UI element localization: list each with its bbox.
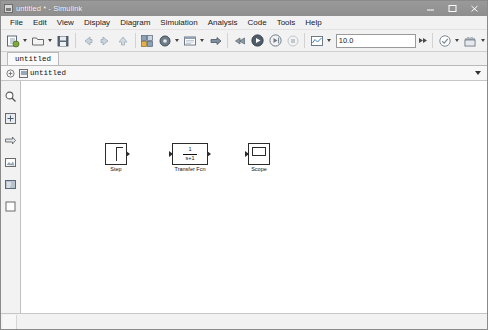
transfer-function-expression: 1 s+1 [173, 144, 207, 164]
step-forward-icon[interactable] [267, 33, 283, 49]
save-icon[interactable] [56, 33, 72, 49]
window-controls [419, 2, 485, 15]
block-transfer-fcn-output-port[interactable] [207, 151, 211, 157]
menu-item-help[interactable]: Help [300, 16, 326, 30]
navigate-icon[interactable] [3, 133, 18, 148]
tab-untitled[interactable]: untitled [7, 52, 59, 65]
image-icon[interactable] [3, 155, 18, 170]
block-step[interactable]: Step [105, 143, 127, 165]
block-scope-input-port[interactable] [245, 151, 249, 157]
open-dropdown-icon[interactable] [47, 33, 54, 49]
fast-forward-icon[interactable] [418, 33, 430, 49]
model-canvas[interactable]: Step 1 s+1 Transfer Fcn [21, 81, 487, 313]
new-model-dropdown-icon[interactable] [22, 33, 29, 49]
tab-strip: untitled [1, 52, 487, 66]
block-scope[interactable]: Scope [248, 143, 270, 165]
title-bar: untitled * - Simulink [1, 1, 487, 16]
area-icon[interactable] [3, 199, 18, 214]
model-configuration-dropdown-icon[interactable] [174, 33, 181, 49]
build-dropdown-icon[interactable] [479, 33, 486, 49]
toolbar-separator [304, 33, 305, 48]
block-transfer-fcn-input-port[interactable] [169, 151, 173, 157]
model-icon [19, 69, 28, 78]
canvas-toolbar [1, 81, 21, 313]
status-bar [1, 313, 487, 329]
menu-item-display[interactable]: Display [79, 16, 115, 30]
simulink-window: untitled * - Simulink File Edit View Dis… [0, 0, 488, 330]
toolbar [1, 30, 487, 52]
menu-item-simulation[interactable]: Simulation [155, 16, 202, 30]
simulation-stop-time-input[interactable] [336, 34, 416, 48]
model-advisor-dropdown-icon[interactable] [454, 33, 461, 49]
block-scope-label: Scope [251, 166, 267, 172]
menu-item-tools[interactable]: Tools [272, 16, 301, 30]
stop-icon [285, 33, 301, 49]
maximize-button[interactable] [441, 2, 463, 15]
transfer-fcn-numerator: 1 [188, 147, 191, 153]
editor-body: Step 1 s+1 Transfer Fcn [1, 81, 487, 313]
simulation-data-inspector-icon[interactable] [309, 33, 325, 49]
block-step-body[interactable] [105, 143, 127, 165]
build-model-icon[interactable] [463, 33, 479, 49]
block-step-label: Step [110, 166, 121, 172]
model-explorer-icon[interactable] [183, 33, 199, 49]
scope-display-area [252, 147, 266, 156]
window-title: untitled * - Simulink [16, 4, 82, 13]
simulation-data-inspector-dropdown-icon[interactable] [326, 33, 333, 49]
expand-tree-icon[interactable] [5, 68, 16, 79]
toolbar-separator [75, 33, 76, 48]
legend-icon[interactable] [3, 177, 18, 192]
zoom-icon[interactable] [3, 89, 18, 104]
fit-to-view-icon[interactable] [3, 111, 18, 126]
new-model-icon[interactable] [5, 33, 21, 49]
menu-item-diagram[interactable]: Diagram [115, 16, 155, 30]
menu-item-code[interactable]: Code [243, 16, 272, 30]
simulink-icon [4, 4, 13, 13]
open-folder-icon[interactable] [30, 33, 46, 49]
close-button[interactable] [463, 2, 485, 15]
block-step-output-port[interactable] [126, 151, 130, 157]
run-icon[interactable] [250, 33, 266, 49]
breadcrumb-path[interactable]: untitled [30, 69, 66, 77]
toolbar-separator [227, 33, 228, 48]
breadcrumb: untitled [1, 66, 487, 81]
toolbar-separator [135, 33, 136, 48]
forward-arrow-icon[interactable] [98, 33, 114, 49]
menu-item-edit[interactable]: Edit [28, 16, 52, 30]
model-configuration-icon[interactable] [157, 33, 173, 49]
scope-screen-icon [249, 144, 269, 164]
block-transfer-fcn[interactable]: 1 s+1 Transfer Fcn [172, 143, 208, 165]
chevron-down-icon[interactable] [473, 68, 482, 79]
model-advisor-icon[interactable] [437, 33, 453, 49]
menu-item-analysis[interactable]: Analysis [203, 16, 243, 30]
minimize-button[interactable] [419, 2, 441, 15]
step-waveform-icon [106, 144, 126, 164]
library-browser-icon[interactable] [140, 33, 156, 49]
back-arrow-icon[interactable] [80, 33, 96, 49]
status-indicator [3, 315, 17, 329]
update-model-icon[interactable] [208, 33, 224, 49]
menu-item-file[interactable]: File [5, 16, 28, 30]
model-explorer-dropdown-icon[interactable] [199, 33, 206, 49]
menu-item-view[interactable]: View [52, 16, 79, 30]
block-scope-body[interactable] [248, 143, 270, 165]
block-transfer-fcn-label: Transfer Fcn [175, 166, 206, 172]
fast-restart-icon[interactable] [232, 33, 248, 49]
up-arrow-icon[interactable] [115, 33, 131, 49]
toolbar-separator [432, 33, 433, 48]
menu-bar: File Edit View Display Diagram Simulatio… [1, 16, 487, 30]
block-transfer-fcn-body[interactable]: 1 s+1 [172, 143, 208, 165]
transfer-fcn-denominator: s+1 [185, 156, 194, 162]
